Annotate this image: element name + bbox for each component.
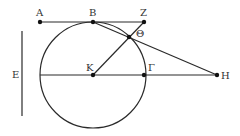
point-theta [127,35,131,39]
point-b [91,20,95,24]
label-z: Ζ [140,7,147,18]
label-k: Κ [86,62,94,73]
label-gamma: Γ [148,62,155,73]
point-h [215,73,219,77]
label-b: Β [89,7,96,18]
point-gamma [142,73,146,77]
geometric-diagram: Α Β Ζ Θ Κ Γ Η Ε [0,0,240,136]
label-theta: Θ [136,28,144,39]
line-bh [93,22,217,75]
point-k [91,73,95,77]
label-a: Α [35,7,44,18]
label-h: Η [221,70,230,81]
point-z [142,20,146,24]
point-a [38,20,42,24]
label-e: Ε [12,69,19,80]
